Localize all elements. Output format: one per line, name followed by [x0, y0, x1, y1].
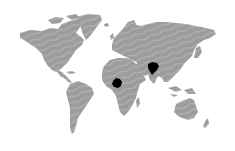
- madagascar: [136, 97, 140, 108]
- caribbean: [66, 71, 76, 74]
- new-zealand: [203, 118, 209, 128]
- world-map: [0, 0, 235, 151]
- british-isles: [110, 33, 114, 40]
- north-america: [20, 19, 86, 72]
- australia: [174, 98, 198, 120]
- south-america: [66, 81, 94, 134]
- iceland: [104, 23, 109, 27]
- southeast-asia-islands: [168, 86, 196, 97]
